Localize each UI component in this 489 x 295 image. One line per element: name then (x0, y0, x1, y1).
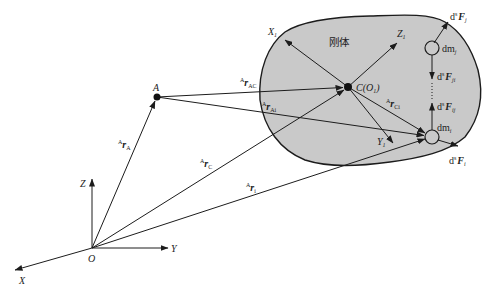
point-a-dot (154, 94, 161, 101)
point-c-label: C(O1) (356, 82, 380, 94)
point-c-dot (344, 83, 352, 91)
label-dm-j: dmj (442, 43, 457, 55)
y-axis-label: Y (171, 243, 178, 254)
point-a-label: A (152, 82, 160, 93)
z-axis-label: Z (80, 178, 86, 189)
x-axis-label: X (18, 275, 26, 286)
label-force-f-j: dsFj (450, 11, 467, 23)
vector-r-i (92, 139, 425, 248)
vector-r-a (92, 101, 155, 248)
rigid-body-kinematics-diagram: 刚体 Z Y X O A C(O1) X1 Z1 Y1 ArA ArAC ArA… (0, 0, 489, 295)
label-r-c: ArC (200, 158, 212, 170)
label-r-ac: ArAC (240, 77, 257, 89)
label-r-a: ArA (118, 139, 131, 151)
x-axis-arrow (15, 248, 92, 270)
label-force-f-i: dsFi (449, 155, 466, 167)
global-frame: Z Y X O (15, 178, 178, 286)
label-dm-i: dmi (437, 122, 452, 134)
label-r-i: Ari (246, 182, 256, 194)
body-x1-label: X1 (267, 26, 277, 38)
rigid-body-label: 刚体 (329, 36, 350, 48)
origin-label: O (88, 253, 95, 264)
vector-r-c (92, 90, 344, 248)
